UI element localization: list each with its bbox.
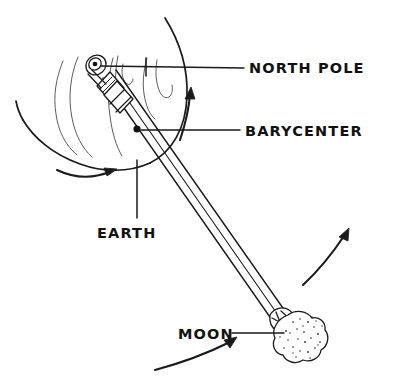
rod-edge-middle [109, 73, 278, 315]
diagram-canvas: NORTH POLE BARYCENTER EARTH MOON [0, 0, 401, 390]
label-north-pole: NORTH POLE [249, 60, 365, 76]
rod-edge-right [116, 70, 285, 311]
earth-meridian-6 [156, 60, 172, 98]
axis-rod [103, 70, 285, 320]
knob-collar-1 [88, 74, 101, 88]
earth-arc-lower [23, 120, 150, 170]
earth-arc-left [16, 101, 23, 120]
earth-meridian-1 [55, 61, 77, 155]
label-earth: EARTH [97, 225, 156, 241]
barycenter-marker [133, 125, 140, 132]
moon-orbit-arrow [303, 228, 349, 285]
barycenter-dot [133, 125, 140, 132]
moon-orbit-arrow-shaft [303, 236, 344, 285]
label-barycenter: BARYCENTER [245, 123, 363, 139]
moon-blob [273, 311, 327, 362]
earth-rotation-arrow-shaft [57, 170, 112, 177]
earth-rotation-arrow [57, 168, 117, 177]
earth-rotation-arrow-head [104, 168, 117, 176]
label-moon: MOON [178, 326, 234, 342]
moon-orbit-arrow-head [339, 228, 349, 241]
earth-moon-barycenter-diagram: NORTH POLE BARYCENTER EARTH MOON [0, 0, 401, 390]
moon-motion-arrow-shaft [155, 342, 230, 370]
earth-arc-upper-right [150, 18, 187, 163]
knob-cap-center-dot [93, 62, 98, 67]
barycenter-orbit-arrow [180, 87, 195, 140]
